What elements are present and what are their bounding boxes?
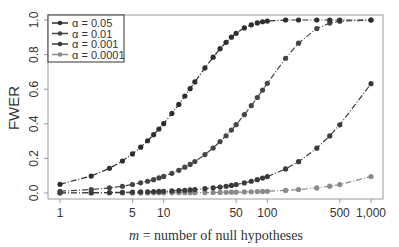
data-point [202, 152, 207, 157]
data-point [242, 189, 247, 194]
legend-marker-icon [58, 21, 63, 26]
data-point [211, 55, 216, 60]
data-point [89, 187, 94, 192]
x-tick-label: 5 [129, 206, 136, 220]
data-point [337, 182, 342, 187]
data-point [151, 132, 156, 137]
y-tick-label: 0.6 [27, 81, 41, 98]
data-point [260, 176, 265, 181]
data-point [255, 20, 260, 25]
data-point [156, 175, 161, 180]
data-point [229, 183, 234, 188]
x-tick-label: 1,000 [356, 206, 386, 220]
data-point [57, 189, 62, 194]
data-point [234, 122, 239, 127]
data-point [249, 179, 254, 184]
data-point [161, 121, 166, 126]
data-point [130, 182, 135, 187]
data-point [120, 184, 125, 189]
legend-label: α = 0.0001 [72, 49, 125, 61]
y-tick-label: 0.0 [27, 184, 41, 201]
data-point [368, 17, 373, 22]
data-point [176, 102, 181, 107]
data-point [223, 184, 228, 189]
data-point [255, 95, 260, 100]
data-point [265, 81, 270, 86]
data-point [138, 189, 143, 194]
y-tick-label: 0.2 [27, 150, 41, 167]
data-point [145, 189, 150, 194]
data-point [260, 87, 265, 92]
data-point [217, 139, 222, 144]
data-point [211, 185, 216, 190]
data-point [283, 188, 288, 193]
data-point [120, 190, 125, 195]
data-point [217, 185, 222, 190]
legend-marker-icon [58, 52, 63, 57]
data-point [314, 26, 319, 31]
x-tick-label: 10 [157, 206, 171, 220]
data-point [327, 133, 332, 138]
data-point [217, 46, 222, 51]
data-point [314, 185, 319, 190]
data-point [169, 111, 174, 116]
data-point [229, 190, 234, 195]
data-point [107, 185, 112, 190]
data-point [223, 40, 228, 45]
data-point [296, 159, 301, 164]
y-tick-label: 0.8 [27, 46, 41, 63]
data-point [337, 122, 342, 127]
data-point [192, 159, 197, 164]
x-tick-label: 100 [257, 206, 277, 220]
x-axis-label-rest: = number of null hypotheses [139, 228, 303, 243]
data-point [161, 189, 166, 194]
series-line [60, 84, 371, 193]
data-point [156, 189, 161, 194]
x-axis: 1510501005001,000 [57, 199, 387, 220]
x-tick-label: 50 [229, 206, 243, 220]
data-point [283, 166, 288, 171]
data-point [89, 173, 94, 178]
data-point [234, 182, 239, 187]
data-point [229, 35, 234, 40]
series-line [60, 177, 371, 194]
data-point [107, 166, 112, 171]
y-tick-label: 1.0 [27, 11, 41, 28]
data-point [260, 189, 265, 194]
y-axis-label: FWER [5, 86, 22, 130]
x-axis-label: m = number of null hypotheses [129, 228, 303, 243]
data-point [188, 86, 193, 91]
data-point [145, 138, 150, 143]
data-point [296, 187, 301, 192]
data-point [130, 190, 135, 195]
data-point [242, 180, 247, 185]
x-tick-label: 1 [57, 206, 64, 220]
data-point [368, 174, 373, 179]
legend-marker-icon [58, 31, 63, 36]
data-point [188, 162, 193, 167]
data-point [107, 190, 112, 195]
data-point [138, 180, 143, 185]
data-point [296, 17, 301, 22]
data-point [296, 41, 301, 46]
data-point [176, 168, 181, 173]
data-point [368, 81, 373, 86]
data-point [327, 17, 332, 22]
data-point [327, 184, 332, 189]
data-point [161, 174, 166, 179]
data-point [176, 188, 181, 193]
data-point [211, 190, 216, 195]
data-point [223, 133, 228, 138]
data-point [217, 190, 222, 195]
data-point [242, 25, 247, 30]
data-point [211, 145, 216, 150]
data-point [255, 177, 260, 182]
data-point [234, 190, 239, 195]
data-point [202, 186, 207, 191]
legend-marker-icon [58, 42, 63, 47]
data-point [169, 171, 174, 176]
data-point [130, 151, 135, 156]
data-point [182, 165, 187, 170]
data-point [151, 177, 156, 182]
data-point [283, 56, 288, 61]
